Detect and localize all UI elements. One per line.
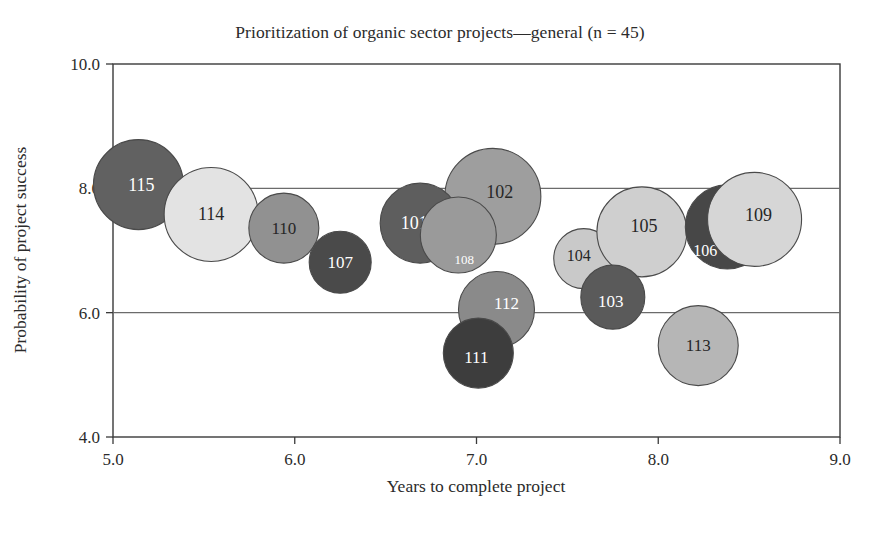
bubble-label-113: 113	[686, 336, 711, 355]
bubble-label-102: 102	[486, 182, 513, 202]
bubble-label-109: 109	[745, 205, 772, 225]
bubble-108[interactable]: 108	[420, 197, 496, 273]
bubble-103[interactable]: 103	[581, 265, 645, 329]
x-tick-label-6.0: 6.0	[284, 450, 305, 469]
y-tick-label-6.0: 6.0	[79, 304, 100, 323]
y-tick-label-4.0: 4.0	[79, 428, 100, 447]
bubble-113[interactable]: 113	[658, 306, 738, 386]
bubble-label-107: 107	[327, 253, 353, 272]
bubble-label-110: 110	[271, 219, 296, 238]
bubble-label-115: 115	[128, 175, 154, 195]
bubble-107[interactable]: 107	[309, 231, 371, 293]
bubble-105[interactable]: 105	[597, 187, 687, 277]
bubble-label-104: 104	[567, 247, 591, 264]
x-axis-title: Years to complete project	[387, 476, 566, 496]
bubble-label-103: 103	[598, 292, 624, 311]
x-tick-label-7.0: 7.0	[466, 450, 487, 469]
bubble-label-114: 114	[198, 204, 224, 224]
x-tick-label-9.0: 9.0	[829, 450, 850, 469]
y-axis-title: Probability of project success	[10, 147, 30, 354]
y-tick-label-10.0: 10.0	[70, 55, 100, 74]
bubble-111[interactable]: 111	[443, 318, 513, 388]
bubble-label-108: 108	[455, 252, 475, 267]
chart-page: Prioritization of organic sector project…	[0, 0, 880, 533]
bubble-label-112: 112	[494, 294, 519, 313]
bubble-label-105: 105	[630, 216, 657, 236]
x-tick-label-5.0: 5.0	[102, 450, 123, 469]
x-tick-label-8.0: 8.0	[648, 450, 669, 469]
bubble-109[interactable]: 109	[708, 172, 802, 266]
bubble-114[interactable]: 114	[164, 167, 258, 261]
x-axis-tick-labels: 5.06.07.08.09.0	[102, 450, 850, 469]
bubble-label-111: 111	[464, 348, 488, 367]
bubble-chart: 10.08.06.04.0 5.06.07.08.09.0 1151141101…	[0, 0, 880, 533]
bubble-label-106: 106	[693, 242, 717, 259]
bubble-110[interactable]: 110	[249, 193, 319, 263]
bubble-series: 1151141101071021011081041051031061091121…	[93, 140, 801, 388]
y-axis-tick-labels: 10.08.06.04.0	[70, 55, 100, 447]
